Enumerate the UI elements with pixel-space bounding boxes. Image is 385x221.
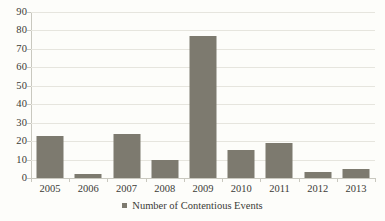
bar-slot <box>260 12 298 178</box>
bar-slot <box>107 12 145 178</box>
x-axis-tick-label: 2011 <box>260 183 298 195</box>
x-axis-tick-label: 2007 <box>107 183 145 195</box>
y-axis-tick-label: 50 <box>16 81 27 92</box>
bar-chart: 0102030405060708090 20052006200720082009… <box>0 0 385 221</box>
bar-slot <box>184 12 222 178</box>
bar-2005 <box>37 136 64 178</box>
bar-slot <box>222 12 260 178</box>
x-axis-tick-label: 2010 <box>222 183 260 195</box>
bar-2006 <box>75 174 102 178</box>
bar-2009 <box>189 36 216 178</box>
x-axis-tick-label: 2006 <box>69 183 107 195</box>
legend-square-marker-icon <box>122 203 127 208</box>
x-axis-tick-label: 2005 <box>31 183 69 195</box>
y-axis-tick-label: 40 <box>16 99 27 110</box>
y-axis-tick-label: 20 <box>16 136 27 147</box>
bar-slot <box>146 12 184 178</box>
bar-2007 <box>113 134 140 178</box>
x-tick-mark <box>375 178 376 182</box>
y-axis-tick-label: 60 <box>16 62 27 73</box>
y-axis-tick-label: 30 <box>16 118 27 129</box>
x-tick-mark <box>299 178 300 182</box>
y-axis-tick-label: 80 <box>16 25 27 36</box>
y-axis-tick-label: 90 <box>16 7 27 18</box>
x-axis-tick-label: 2013 <box>337 183 375 195</box>
bar-2011 <box>266 143 293 178</box>
bar-slot <box>31 12 69 178</box>
x-tick-mark <box>184 178 185 182</box>
bar-slot <box>299 12 337 178</box>
bar-slot <box>337 12 375 178</box>
x-tick-mark <box>146 178 147 182</box>
x-axis-tick-label: 2009 <box>184 183 222 195</box>
x-tick-mark <box>260 178 261 182</box>
bar-2008 <box>151 160 178 178</box>
x-tick-mark <box>337 178 338 182</box>
x-tick-mark <box>222 178 223 182</box>
y-axis-tick-label: 0 <box>22 173 27 184</box>
bar-2012 <box>304 172 331 178</box>
bar-slot <box>69 12 107 178</box>
x-tick-mark <box>69 178 70 182</box>
y-axis-tick-label: 10 <box>16 155 27 166</box>
x-tick-mark <box>107 178 108 182</box>
legend-label: Number of Contentious Events <box>132 200 262 211</box>
plot-area <box>31 12 375 178</box>
legend: Number of Contentious Events <box>0 200 385 211</box>
bar-2013 <box>342 169 369 178</box>
x-tick-mark <box>31 178 32 182</box>
bar-2010 <box>228 150 255 178</box>
x-axis-tick-label: 2012 <box>299 183 337 195</box>
y-axis-tick-label: 70 <box>16 44 27 55</box>
x-axis-tick-label: 2008 <box>146 183 184 195</box>
axis-baseline <box>31 178 375 179</box>
